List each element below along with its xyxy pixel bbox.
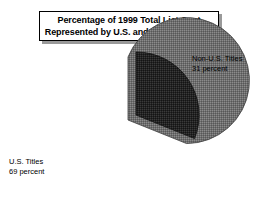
pie-label-us-name: U.S. Titles xyxy=(9,157,43,166)
pie-label-nonus-percent: 31 percent xyxy=(192,64,242,74)
pie-label-us-titles: U.S. Titles 69 percent xyxy=(9,157,44,176)
pie-label-nonus-name: Non-U.S. Titles xyxy=(192,54,242,63)
pie-label-nonus-titles: Non-U.S. Titles 31 percent xyxy=(192,54,242,73)
pie-label-us-percent: 69 percent xyxy=(9,167,44,177)
chart-figure: Percentage of 1999 Total List Cost Repre… xyxy=(0,0,261,206)
